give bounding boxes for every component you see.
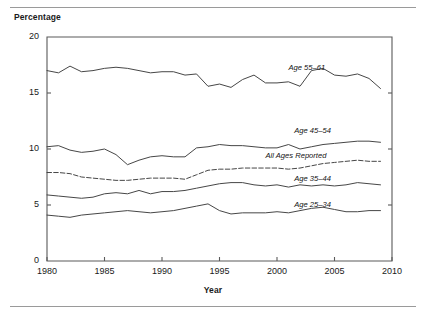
y-tick-label: 0 — [13, 255, 39, 265]
y-tick-label: 15 — [13, 87, 39, 97]
x-tick-label: 1985 — [85, 266, 125, 276]
series-label-1: Age 45–54 — [294, 126, 331, 135]
y-tick-label: 5 — [13, 199, 39, 209]
x-tick-label: 1995 — [200, 266, 240, 276]
chart-figure: Percentage Year 05101520 198019851990199… — [0, 0, 426, 314]
series-label-3: Age 35–44 — [294, 174, 331, 183]
series-label-0: Age 55–61 — [289, 63, 326, 72]
x-tick-label: 2010 — [372, 266, 412, 276]
x-tick-label: 2005 — [315, 266, 355, 276]
x-tick-label: 2000 — [257, 266, 297, 276]
series-line-3 — [47, 183, 381, 199]
series-line-1 — [47, 141, 381, 165]
series-label-4: Age 25–34 — [294, 200, 331, 209]
x-tick-label: 1990 — [142, 266, 182, 276]
y-tick-label: 20 — [13, 31, 39, 41]
axis-frame — [47, 37, 392, 261]
series-line-0 — [47, 66, 381, 88]
x-tick-label: 1980 — [27, 266, 67, 276]
series-label-2: All Ages Reported — [266, 151, 327, 160]
y-tick-label: 10 — [13, 143, 39, 153]
